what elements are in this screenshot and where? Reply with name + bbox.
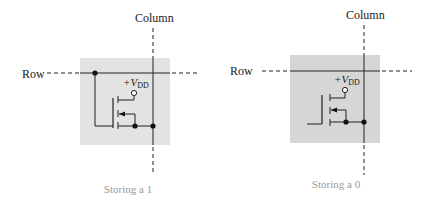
cell-0-background — [290, 55, 380, 143]
cell-0-caption: Storing a 0 — [312, 178, 361, 190]
cell-storing-0: Row Column +VDD Storing a 0 — [230, 8, 412, 190]
cell-0-column-junction-dot — [361, 119, 366, 124]
cell-1-row-label: Row — [22, 67, 45, 81]
cell-1-column-junction-dot — [150, 123, 155, 128]
cell-1-vdd-terminal — [131, 90, 136, 95]
cell-1-column-label: Column — [135, 11, 174, 25]
cell-storing-1: Row Column +VDD Storing a 1 — [22, 11, 200, 195]
cell-0-source-dot — [343, 119, 348, 124]
cell-0-vdd-terminal — [342, 87, 347, 92]
memory-cell-diagram: Row Column +VDD Storing a 1 Row Col — [0, 0, 430, 204]
cell-1-caption: Storing a 1 — [104, 183, 152, 195]
cell-0-row-label: Row — [230, 64, 253, 78]
cell-0-column-label: Column — [346, 8, 385, 22]
cell-1-source-dot — [132, 123, 137, 128]
